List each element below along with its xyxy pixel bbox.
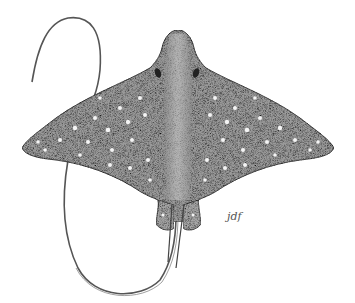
artist-signature: jdf xyxy=(227,210,242,223)
eagle-ray-illustration xyxy=(0,0,355,303)
ray-midline xyxy=(164,34,192,200)
